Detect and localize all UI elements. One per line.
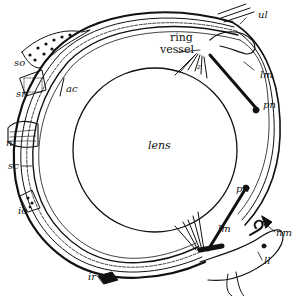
label-ring-vessel-line2: vessel [160, 44, 194, 55]
label-ring-vessel-line1: ring [170, 32, 193, 43]
label-so: so [14, 58, 25, 68]
eye-cross-section-diagram: ul ring vessel lm pn z lens so sr ac n s… [0, 0, 300, 296]
label-ir: ir [88, 272, 96, 282]
label-ac: ac [66, 84, 78, 94]
label-ul: ul [258, 10, 268, 20]
label-io: io [18, 206, 27, 216]
label-n: n [6, 138, 12, 148]
label-pn-lower: pn [236, 184, 249, 194]
label-sc: sc [8, 161, 19, 171]
label-pn-upper: pn [263, 100, 276, 110]
label-sr: sr [16, 89, 26, 99]
label-z: z [197, 64, 201, 71]
label-lm-upper: lm [260, 70, 273, 80]
label-ll: ll [264, 256, 270, 266]
label-lens: lens [148, 140, 171, 151]
label-lm-lower: lm [218, 224, 231, 234]
label-nm: nm [276, 228, 292, 238]
